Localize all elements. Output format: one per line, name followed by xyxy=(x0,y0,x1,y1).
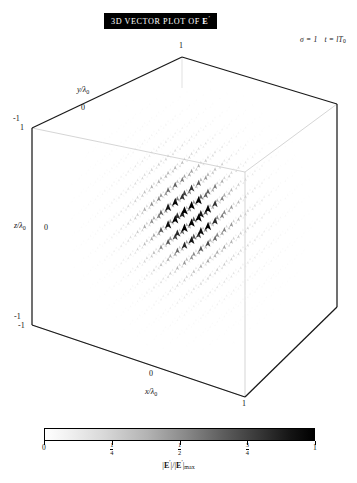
vector-glyph xyxy=(153,286,155,289)
vector-glyph xyxy=(174,317,176,319)
vector-glyph xyxy=(109,274,111,276)
vector-glyph xyxy=(169,151,171,154)
vector-glyph xyxy=(139,146,141,149)
vector-glyph xyxy=(252,138,254,141)
vector-glyph xyxy=(275,223,277,226)
vector-glyph xyxy=(254,204,257,207)
vector-glyph xyxy=(127,136,129,139)
vector-glyph xyxy=(177,151,179,154)
vector-glyph xyxy=(268,280,270,283)
vector-glyph xyxy=(78,212,80,214)
vector-glyph xyxy=(186,137,188,140)
vector-glyph xyxy=(273,204,275,206)
vector-glyph xyxy=(188,259,191,262)
vector-glyph xyxy=(259,219,262,222)
colorbar-gradient xyxy=(44,428,315,441)
vector-glyph xyxy=(99,179,101,181)
vector-glyph xyxy=(268,193,270,196)
vector-glyph xyxy=(115,194,117,197)
vector-glyph xyxy=(111,149,113,152)
vector-glyph xyxy=(230,310,232,313)
vector-glyph xyxy=(226,265,228,268)
vector-glyph xyxy=(111,236,113,239)
vector-glyph xyxy=(134,303,136,305)
vector-glyph xyxy=(104,241,106,244)
vector-glyph xyxy=(174,282,176,285)
vector-glyph xyxy=(268,125,270,127)
vector-glyph xyxy=(228,291,230,293)
vector-glyph xyxy=(247,192,250,195)
vector-glyph xyxy=(205,108,207,110)
vector-glyph xyxy=(270,207,272,210)
vector-glyph xyxy=(95,285,97,287)
vector-glyph xyxy=(212,119,214,122)
vector-glyph xyxy=(246,243,249,246)
vector-glyph xyxy=(85,241,87,243)
vector-glyph xyxy=(120,210,123,213)
vector-glyph xyxy=(186,90,188,92)
vector-glyph xyxy=(239,266,242,269)
vector-glyph xyxy=(181,312,183,314)
vector-glyph xyxy=(287,263,289,266)
vector-glyph xyxy=(116,200,118,203)
vector-glyph xyxy=(181,208,183,211)
vector-glyph xyxy=(289,208,291,210)
vector-glyph xyxy=(242,147,244,150)
vector-glyph xyxy=(284,145,286,147)
vector-glyph xyxy=(216,303,218,306)
colorbar-tick-label: 14 xyxy=(102,442,122,456)
vector-glyph xyxy=(174,300,176,303)
vector-glyph xyxy=(256,270,258,273)
vector-glyph xyxy=(265,244,267,246)
vector-glyph xyxy=(251,220,253,223)
vector-glyph xyxy=(225,259,228,262)
vector-glyph xyxy=(181,264,184,268)
vector-glyph xyxy=(138,192,141,195)
vector-glyph xyxy=(216,181,219,185)
vector-glyph xyxy=(294,206,296,209)
vector-glyph xyxy=(130,323,132,325)
vector-glyph xyxy=(294,223,296,226)
vector-glyph xyxy=(145,187,148,190)
vector-glyph xyxy=(235,234,237,237)
vector-glyph xyxy=(252,104,254,106)
vector-glyph xyxy=(263,230,265,233)
vector-glyph xyxy=(153,170,155,173)
vector-glyph xyxy=(242,298,244,300)
vector-glyph xyxy=(225,190,227,193)
vector-glyph xyxy=(95,267,97,269)
vector-glyph xyxy=(139,180,141,183)
vector-glyph xyxy=(193,102,195,104)
vector-glyph xyxy=(245,109,247,111)
vector-glyph xyxy=(115,264,117,267)
vector-glyph xyxy=(193,340,195,342)
vector-glyph xyxy=(275,270,277,272)
vector-glyph xyxy=(172,321,174,323)
vector-glyph xyxy=(181,277,183,280)
vector-glyph xyxy=(251,173,254,176)
vector-glyph xyxy=(125,260,127,263)
vector-glyph xyxy=(263,144,265,146)
z-axis-tick-top: 1 xyxy=(20,124,24,132)
vector-glyph xyxy=(280,268,282,271)
vector-glyph xyxy=(125,225,127,228)
vector-glyph xyxy=(284,249,286,252)
vector-glyph xyxy=(179,113,181,115)
vector-glyph xyxy=(139,163,141,166)
vector-glyph xyxy=(141,241,143,244)
vector-glyph xyxy=(204,172,206,175)
vector-glyph xyxy=(268,245,270,248)
vector-glyph xyxy=(160,159,163,162)
vector-glyph xyxy=(113,319,115,321)
vector-glyph xyxy=(280,285,282,287)
vector-glyph xyxy=(181,300,183,303)
vector-glyph xyxy=(282,282,284,284)
vector-glyph xyxy=(174,322,176,325)
vector-glyph xyxy=(273,291,275,293)
vector-glyph xyxy=(181,242,183,245)
vector-glyph xyxy=(230,188,233,192)
vector-glyph xyxy=(221,162,224,166)
vector-glyph xyxy=(186,345,188,347)
vector-glyph xyxy=(237,230,239,232)
vector-glyph xyxy=(247,278,249,281)
